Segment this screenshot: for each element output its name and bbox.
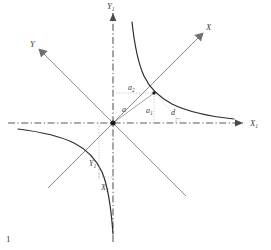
- x-axis-rotated-label: X: [205, 22, 212, 32]
- label-a1: a1: [146, 106, 153, 116]
- hyperbola-lower-branch: [18, 129, 113, 234]
- label-x1-lower: X1: [100, 183, 109, 193]
- x1-axis-arrowhead: [235, 120, 243, 127]
- y1-axis-label: Y1: [107, 1, 115, 12]
- figure-container: X1 Y1 X Y a2 a a1 d Y1: [0, 0, 271, 250]
- labels-group: X1 Y1 X Y a2 a a1 d Y1: [30, 1, 258, 193]
- label-d: d: [171, 108, 176, 117]
- figure-number: 1: [6, 234, 11, 244]
- primary-axes-group: [8, 13, 243, 242]
- origin-point: [110, 120, 115, 125]
- hyperbola-rotated-axes-diagram: X1 Y1 X Y a2 a a1 d Y1: [0, 0, 271, 250]
- label-a2: a2: [128, 83, 135, 93]
- lower-construction-group: [99, 123, 113, 181]
- y-axis-rotated-label: Y: [30, 39, 36, 49]
- marked-point-upper: [152, 91, 155, 94]
- hyperbola-upper-branch: [132, 22, 234, 119]
- hyperbola-curves-group: [18, 22, 234, 234]
- x1-axis-label: X1: [249, 118, 258, 129]
- rotated-axes-group: [38, 32, 203, 196]
- y1-axis-arrowhead: [110, 13, 117, 21]
- label-a: a: [122, 105, 126, 114]
